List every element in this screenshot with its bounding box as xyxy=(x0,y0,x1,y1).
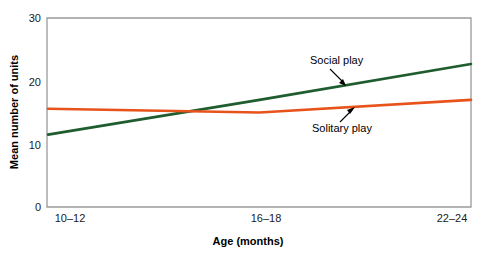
x-axis-title: Age (months) xyxy=(213,235,284,247)
x-tick-label-22-24: 22–24 xyxy=(437,212,468,224)
chart-figure: 30 20 10 0 10–12 16–18 22–24 Age (months… xyxy=(0,0,491,254)
y-tick-label-30: 30 xyxy=(29,12,41,24)
line-chart: 30 20 10 0 10–12 16–18 22–24 Age (months… xyxy=(0,0,491,254)
y-tick-label-20: 20 xyxy=(29,76,41,88)
x-tick-label-16-18: 16–18 xyxy=(251,212,282,224)
x-tick-label-10-12: 10–12 xyxy=(55,212,86,224)
annotation-label-solitary-play: Solitary play xyxy=(312,122,372,134)
y-axis-title: Mean number of units xyxy=(8,55,20,169)
annotation-label-social-play: Social play xyxy=(310,54,364,66)
y-tick-label-10: 10 xyxy=(29,139,41,151)
y-tick-label-0: 0 xyxy=(35,201,41,213)
